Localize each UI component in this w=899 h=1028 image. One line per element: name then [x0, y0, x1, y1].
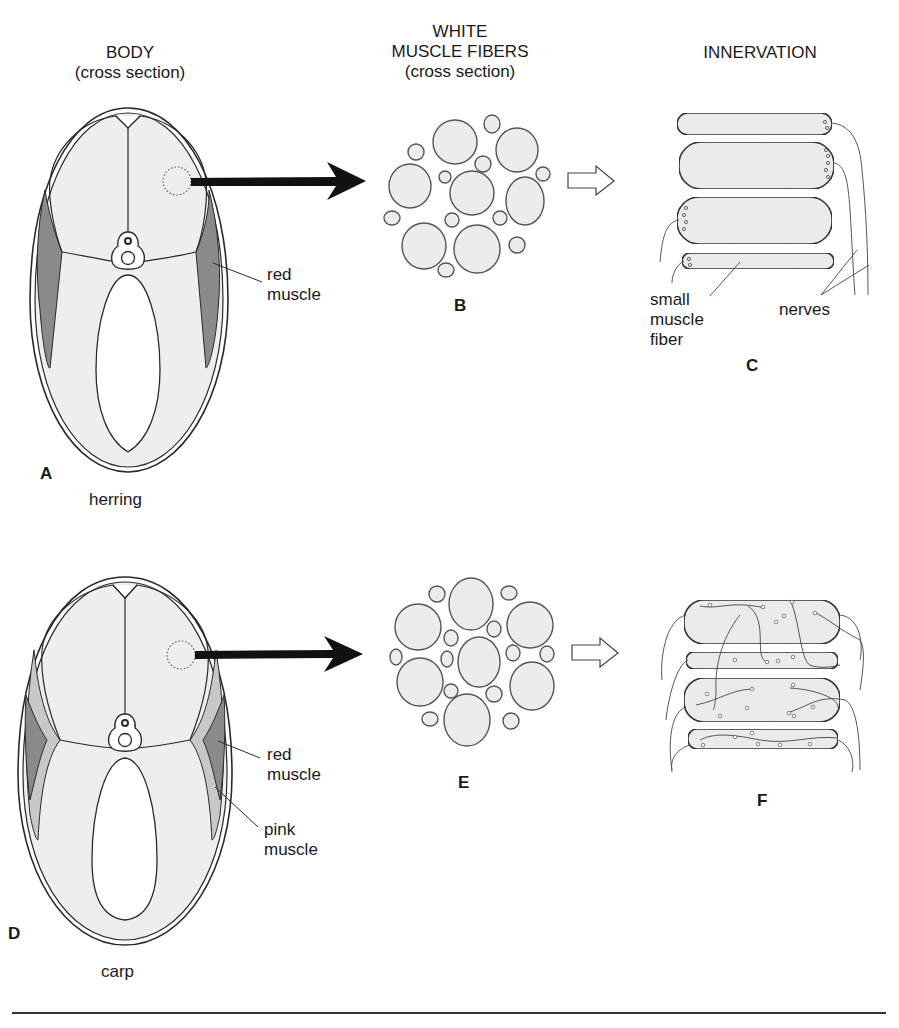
herring-red-muscle-label: red muscle [267, 265, 321, 305]
herring-white-fibers [384, 115, 550, 277]
small-muscle-fiber-label: small muscle fiber [650, 290, 704, 350]
nerves-label: nerves [779, 300, 830, 320]
carp-red-muscle-label: red muscle [267, 745, 321, 785]
panel-label-f: F [757, 791, 767, 811]
panel-label-b: B [454, 296, 466, 316]
herring-zoom-arrow [191, 162, 366, 200]
herring-innervation-fibers [660, 113, 869, 296]
carp-pink-muscle-label: pink muscle [264, 820, 318, 860]
carp-zoom-arrow [195, 636, 363, 672]
diagram-canvas [0, 0, 899, 1028]
herring-body-cross-section [30, 108, 262, 472]
panel-label-a: A [40, 464, 52, 484]
panel-label-c: C [746, 356, 758, 376]
carp-white-fibers [390, 578, 554, 746]
carp-innervation-fibers [662, 600, 864, 772]
panel-label-d: D [8, 924, 20, 944]
carp-innervation-arrow [572, 638, 618, 667]
herring-innervation-arrow [568, 166, 614, 195]
panel-label-e: E [458, 773, 469, 793]
species-label-herring: herring [89, 490, 142, 510]
carp-body-cross-section [18, 577, 260, 945]
species-label-carp: carp [101, 962, 134, 982]
bottom-rule [12, 1012, 886, 1014]
